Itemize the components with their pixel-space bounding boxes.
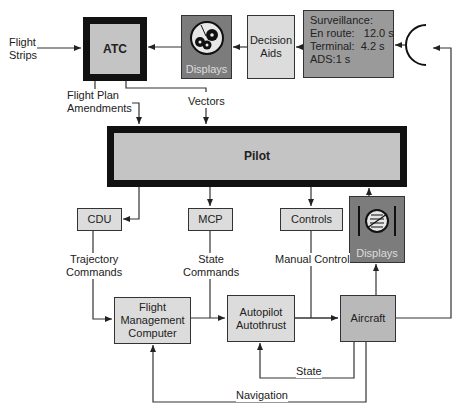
navigation-label: Navigation <box>236 389 288 402</box>
trajectory-commands-label: Trajectory Commands <box>66 253 122 279</box>
vectors-label: Vectors <box>188 95 225 108</box>
cdu-node: CDU <box>77 208 122 231</box>
surveillance-node: Surveillance: En route: 12.0 s Terminal:… <box>303 10 394 78</box>
autopilot-line2: Autothrust <box>236 319 286 332</box>
mcp-label: MCP <box>198 213 222 226</box>
fmc-line2: Management <box>120 314 184 327</box>
fmc-line1: Flight <box>139 301 166 314</box>
manual-control-label: Manual Control <box>275 253 350 266</box>
flight-plan-amendments-label: Flight Plan Amendments <box>67 89 132 115</box>
surveillance-title: Surveillance: <box>310 14 373 27</box>
mcp-node: MCP <box>188 208 233 231</box>
surveillance-terminal: Terminal: 4.2 s <box>310 40 385 53</box>
aircraft-label: Aircraft <box>351 312 386 325</box>
radar-antenna-icon <box>404 23 428 67</box>
atc-displays-label: Displays <box>186 63 228 76</box>
autopilot-line1: Autopilot <box>240 306 283 319</box>
atc-displays-node: Displays <box>181 15 232 79</box>
aircraft-node: Aircraft <box>340 295 396 342</box>
surveillance-ads: ADS:1 s <box>310 53 350 66</box>
controls-label: Controls <box>291 213 332 226</box>
attitude-indicator-icon <box>355 202 399 242</box>
surveillance-enroute: En route: 12.0 s <box>310 27 394 40</box>
fmc-node: Flight Management Computer <box>114 297 191 344</box>
state-commands-label: State Commands <box>183 253 239 279</box>
pilot-node: Pilot <box>107 126 407 187</box>
controls-node: Controls <box>280 208 343 231</box>
fmc-line3: Computer <box>128 327 176 340</box>
cdu-label: CDU <box>88 213 112 226</box>
pilot-label: Pilot <box>244 150 270 163</box>
decision-aids-line2: Aids <box>260 47 281 60</box>
cockpit-displays-label: Displays <box>356 247 398 260</box>
atc-label: ATC <box>103 43 127 56</box>
radar-scope-icon <box>189 20 225 56</box>
state-label: State <box>296 365 322 378</box>
flight-strips-label: Flight Strips <box>9 36 37 62</box>
decision-aids-node: Decision Aids <box>247 15 295 79</box>
cockpit-displays-node: Displays <box>349 196 405 263</box>
autopilot-node: Autopilot Autothrust <box>227 295 295 342</box>
decision-aids-line1: Decision <box>250 34 292 47</box>
atc-node: ATC <box>83 17 147 81</box>
